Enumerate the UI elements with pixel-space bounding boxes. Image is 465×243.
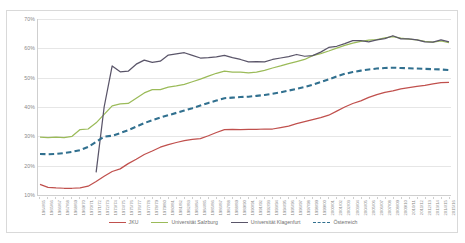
x-axis-tick-label: 1971/72 bbox=[97, 200, 102, 216]
x-axis-tick-label: 1996/97 bbox=[298, 200, 303, 216]
x-axis-tick-label: 1982/83 bbox=[186, 200, 191, 216]
x-axis-tick bbox=[425, 197, 426, 199]
x-axis-tick bbox=[248, 197, 249, 199]
x-axis-tick-label: 2012/13 bbox=[427, 200, 432, 216]
x-axis-tick bbox=[39, 197, 40, 199]
x-axis-tick bbox=[256, 197, 257, 199]
x-axis-tick-label: 1975/76 bbox=[129, 200, 134, 216]
series-line-universit-t-salzburg bbox=[40, 37, 449, 138]
legend-item[interactable]: Universität Klagenfurt bbox=[231, 219, 301, 225]
x-axis-tick bbox=[71, 197, 72, 199]
x-axis-tick-label: 1986/87 bbox=[218, 200, 223, 216]
legend-swatch-icon bbox=[313, 222, 330, 223]
x-axis-tick-label: 2003/04 bbox=[355, 200, 360, 216]
x-axis-tick bbox=[449, 197, 450, 199]
x-axis-tick bbox=[272, 197, 273, 199]
x-axis-tick-label: 1988/89 bbox=[234, 200, 239, 216]
x-axis-tick-label: 1989/90 bbox=[242, 200, 247, 216]
x-axis-tick bbox=[168, 197, 169, 199]
chart-title bbox=[0, 0, 465, 9]
x-axis-tick bbox=[377, 197, 378, 199]
x-axis-tick-label: 1983/84 bbox=[194, 200, 199, 216]
plot-area: 10%20%30%40%50%60%70% bbox=[37, 19, 451, 195]
x-axis-tick-label: 2009/10 bbox=[403, 200, 408, 216]
x-axis-tick bbox=[417, 197, 418, 199]
x-axis-tick-label: 1987/88 bbox=[226, 200, 231, 216]
x-axis-tick bbox=[441, 197, 442, 199]
x-axis-tick-label: 2010/11 bbox=[411, 200, 416, 215]
series-line-sterreich bbox=[40, 68, 449, 155]
x-axis-tick-label: 1984/85 bbox=[202, 200, 207, 216]
legend-label: Österreich bbox=[333, 219, 357, 225]
x-axis-tick bbox=[232, 197, 233, 199]
legend-item[interactable]: Österreich bbox=[313, 219, 357, 225]
x-axis-tick-label: 2005/06 bbox=[371, 200, 376, 216]
x-axis-tick-label: 1999/00 bbox=[322, 200, 327, 216]
x-axis-tick bbox=[224, 197, 225, 199]
x-axis-tick-label: 2006/07 bbox=[379, 200, 384, 216]
chart-legend: JKUUniversität SalzburgUniversität Klage… bbox=[7, 215, 459, 229]
x-axis-tick-label: 2013/14 bbox=[435, 200, 440, 216]
y-axis-tick-label: 30% bbox=[24, 133, 35, 139]
x-axis-tick bbox=[192, 197, 193, 199]
x-axis-tick-label: 2001/02 bbox=[338, 200, 343, 216]
x-axis-tick-label: 1981/82 bbox=[178, 200, 183, 216]
x-axis-tick bbox=[385, 197, 386, 199]
legend-item[interactable]: Universität Salzburg bbox=[151, 219, 217, 225]
x-axis-tick-label: 1964/65 bbox=[41, 200, 46, 216]
x-axis-tick bbox=[176, 197, 177, 199]
y-axis-tick-label: 10% bbox=[24, 192, 35, 198]
x-axis-tick-label: 1968/69 bbox=[73, 200, 78, 216]
y-axis-tick-label: 20% bbox=[24, 163, 35, 169]
x-axis-tick-label: 1966/67 bbox=[57, 200, 62, 216]
x-axis-tick-label: 2002/03 bbox=[346, 200, 351, 216]
x-axis-tick bbox=[200, 197, 201, 199]
x-axis-tick-label: 2011/12 bbox=[419, 200, 424, 215]
x-axis-tick-label: 1992/93 bbox=[266, 200, 271, 216]
x-axis-tick-label: 1970/71 bbox=[89, 200, 94, 216]
x-axis-tick bbox=[184, 197, 185, 199]
x-axis-tick-label: 1973/74 bbox=[113, 200, 118, 216]
x-axis-tick-label: 1993/94 bbox=[274, 200, 279, 216]
x-axis-tick bbox=[240, 197, 241, 199]
legend-swatch-icon bbox=[151, 222, 168, 223]
x-axis-tick-label: 1967/68 bbox=[65, 200, 70, 216]
x-axis-tick bbox=[160, 197, 161, 199]
legend-label: Universität Klagenfurt bbox=[251, 219, 301, 225]
plot-wrapper: 10%20%30%40%50%60%70% bbox=[37, 19, 451, 195]
x-axis-tick-label: 1991/92 bbox=[258, 200, 263, 216]
x-axis-tick-label: 1974/75 bbox=[121, 200, 126, 216]
legend-label: JKU bbox=[129, 219, 139, 225]
x-axis-tick bbox=[47, 197, 48, 199]
x-axis-tick bbox=[433, 197, 434, 199]
x-axis-tick bbox=[63, 197, 64, 199]
x-axis-tick bbox=[361, 197, 362, 199]
x-axis-tick-label: 1994/95 bbox=[282, 200, 287, 216]
x-axis-tick-label: 2007/08 bbox=[387, 200, 392, 216]
x-axis-tick-label: 1997/98 bbox=[306, 200, 311, 216]
x-axis-tick-label: 2008/09 bbox=[395, 200, 400, 216]
x-axis-tick-label: 1990/91 bbox=[250, 200, 255, 216]
x-axis-tick-label: 1976/77 bbox=[137, 200, 142, 216]
y-axis-tick-label: 70% bbox=[24, 16, 35, 22]
x-axis-tick bbox=[369, 197, 370, 199]
x-axis-tick-label: 1977/78 bbox=[146, 200, 151, 216]
x-axis-tick bbox=[216, 197, 217, 199]
x-axis-tick-label: 1969/70 bbox=[81, 200, 86, 216]
legend-label: Universität Salzburg bbox=[171, 219, 217, 225]
x-axis-tick-label: 1965/66 bbox=[49, 200, 54, 216]
y-axis-tick-label: 40% bbox=[24, 104, 35, 110]
x-axis-tick bbox=[208, 197, 209, 199]
y-axis-tick-label: 60% bbox=[24, 45, 35, 51]
x-axis-tick-label: 1980/81 bbox=[170, 200, 175, 216]
x-axis-line bbox=[37, 195, 451, 196]
x-axis-tick bbox=[152, 197, 153, 199]
legend-swatch-icon bbox=[109, 222, 126, 223]
legend-item[interactable]: JKU bbox=[109, 219, 139, 225]
series-lines bbox=[38, 19, 451, 195]
x-axis-tick bbox=[264, 197, 265, 199]
y-axis-tick-label: 50% bbox=[24, 75, 35, 81]
x-axis-tick-label: 2000/01 bbox=[330, 200, 335, 216]
x-axis-tick-label: 1978/79 bbox=[154, 200, 159, 216]
x-axis-tick bbox=[55, 197, 56, 199]
